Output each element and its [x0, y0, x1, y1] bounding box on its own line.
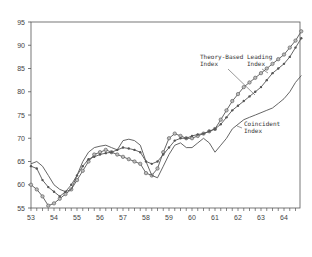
- x-tick-label: 57: [119, 214, 127, 221]
- annotation-leader: [237, 126, 242, 128]
- x-tick-label: 53: [27, 214, 35, 221]
- y-tick-label: 95: [17, 19, 25, 26]
- x-tick-label: 58: [142, 214, 150, 221]
- x-tick-label: 56: [96, 214, 104, 221]
- x-tick-label: 54: [50, 214, 58, 221]
- x-tick-label: 55: [73, 214, 81, 221]
- annotation-label: Index: [200, 60, 218, 67]
- x-tick-label: 59: [165, 214, 173, 221]
- x-tick-label: 64: [280, 214, 288, 221]
- y-tick-label: 65: [17, 158, 25, 165]
- annotation-label: Index: [244, 127, 262, 134]
- x-tick-label: 62: [234, 214, 242, 221]
- x-tick-label: 63: [257, 214, 265, 221]
- y-tick-label: 70: [17, 135, 25, 142]
- y-tick-label: 75: [17, 112, 25, 119]
- y-tick-label: 80: [17, 88, 25, 95]
- y-tick-label: 85: [17, 65, 25, 72]
- line-chart: 5560657075808590955354555657585960616263…: [0, 0, 312, 257]
- plot-frame: [31, 22, 300, 208]
- annotations: Theory-BasedIndexLeadingIndexCoincidentI…: [200, 53, 281, 134]
- y-tick-label: 55: [17, 205, 25, 212]
- y-tick-label: 60: [17, 181, 25, 188]
- y-tick-label: 90: [17, 42, 25, 49]
- x-tick-label: 61: [211, 214, 219, 221]
- annotation-label: Coincident: [244, 120, 281, 127]
- annotation-label: Index: [247, 60, 265, 67]
- x-tick-label: 60: [188, 214, 196, 221]
